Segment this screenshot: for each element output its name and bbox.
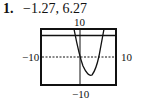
calculator-graph xyxy=(0,0,144,108)
